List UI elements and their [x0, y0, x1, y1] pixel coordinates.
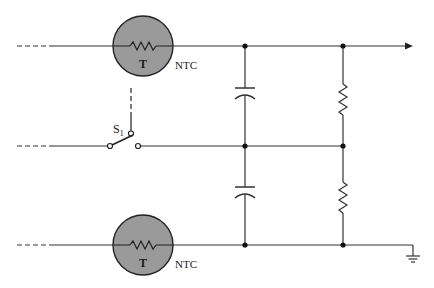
- switch-label-letter: S: [113, 122, 120, 136]
- ground-icon: [406, 245, 420, 262]
- thermistor-top-type-label: NTC: [175, 59, 197, 71]
- switch-contact-right-icon: [136, 144, 141, 149]
- output-arrow-icon: [405, 43, 413, 50]
- resistor-top-zigzag-icon: [339, 84, 347, 115]
- thermistor-bottom-label: T: [139, 256, 147, 271]
- switch-label-subscript: 1: [120, 129, 124, 138]
- thermistor-top-label: T: [139, 57, 147, 72]
- switch-label: S1: [113, 122, 124, 138]
- switch-s1: [108, 88, 141, 149]
- thermistor-bottom-type-label: NTC: [175, 258, 197, 270]
- resistor-bottom-zigzag-icon: [339, 182, 347, 213]
- circuit-diagram: [0, 0, 434, 288]
